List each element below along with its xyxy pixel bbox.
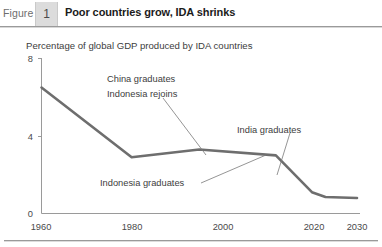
y-tick-label-0: 0	[28, 209, 33, 219]
x-tick-label-2020: 2020	[304, 222, 325, 232]
annotation-china-graduates: China graduates	[107, 74, 176, 84]
data-series-line	[42, 88, 358, 198]
y-tick-label-8: 8	[28, 54, 33, 64]
x-tick-label-2000: 2000	[213, 222, 234, 232]
leader-line-indonesia-rejoins	[163, 98, 206, 155]
x-tick-label-2030: 2030	[347, 222, 368, 232]
x-tick-label-1960: 1960	[31, 222, 52, 232]
annotation-indonesia-rejoins: Indonesia rejoins	[107, 89, 178, 99]
footer-divider-shadow	[4, 241, 378, 242]
chart-plot-area: 8 4 0 1960 1980 2000 2020 2030 China gra…	[0, 0, 382, 247]
x-tick-label-1980: 1980	[122, 222, 143, 232]
annotation-indonesia-graduates: Indonesia graduates	[100, 178, 185, 188]
annotation-india-graduates: India graduates	[237, 125, 301, 135]
leader-line-indonesia-graduates	[201, 155, 266, 183]
figure-container: Figure 1 Poor countries grow, IDA shrink…	[0, 0, 382, 247]
y-tick-label-4: 4	[28, 132, 33, 142]
line-chart-svg: 8 4 0 1960 1980 2000 2020 2030 China gra…	[0, 0, 382, 247]
